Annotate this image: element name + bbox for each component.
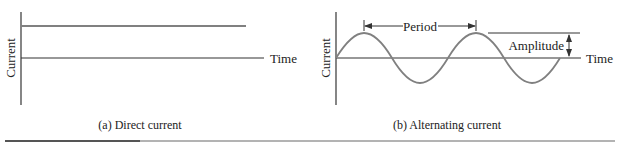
- amplitude-label: Amplitude: [508, 38, 564, 53]
- panel-alternating-current: Period Amplitude Current Time (b) Altern…: [318, 12, 613, 132]
- caption-alternating-current: (b) Alternating current: [393, 118, 502, 132]
- panel-direct-current: Current Time (a) Direct current: [3, 12, 297, 132]
- current-diagram: Current Time (a) Direct current Period A…: [0, 0, 621, 143]
- caption-direct-current: (a) Direct current: [98, 118, 182, 132]
- x-axis-label: Time: [586, 51, 613, 66]
- period-label: Period: [403, 19, 437, 34]
- y-axis-label: Current: [318, 38, 333, 78]
- x-axis-label: Time: [270, 51, 297, 66]
- y-axis-label: Current: [3, 38, 18, 78]
